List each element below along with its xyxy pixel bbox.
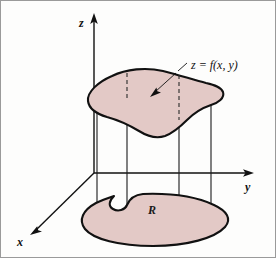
x-axis-label: x xyxy=(16,235,23,249)
region-r-group xyxy=(82,194,228,246)
surface-group xyxy=(88,69,223,137)
callout-tick-line xyxy=(178,63,187,71)
surface-callout-label: z = f(x, y) xyxy=(190,58,238,72)
figure-container: z y x z = f(x, y) R xyxy=(0,0,276,258)
region-r-shape xyxy=(82,194,228,246)
z-axis-label: z xyxy=(78,16,84,30)
surface-shape xyxy=(88,69,223,137)
diagram-canvas: z y x z = f(x, y) R xyxy=(1,1,276,258)
y-axis-label: y xyxy=(243,180,251,194)
x-axis-arrow-icon xyxy=(30,226,42,235)
region-r-label: R xyxy=(147,203,156,217)
